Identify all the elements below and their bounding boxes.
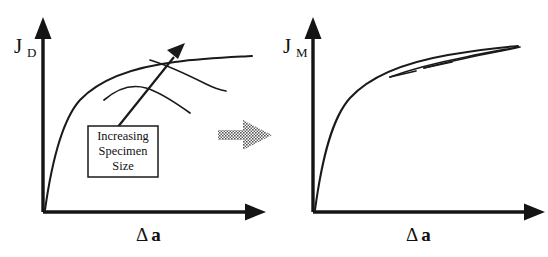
callout-line-3: Size: [112, 159, 134, 173]
right-y-axis-symbol: J: [283, 34, 291, 58]
figure-root: Increasing Specimen Size J D Δ a: [0, 0, 548, 257]
left-x-axis-variable: a: [151, 224, 161, 245]
left-x-axis-delta: Δ: [136, 224, 148, 245]
canvas-background: [0, 0, 548, 257]
right-y-axis-subscript: M: [296, 45, 308, 60]
callout-line-1: Increasing: [97, 129, 149, 143]
right-x-axis-delta: Δ: [406, 224, 418, 245]
increasing-size-callout: Increasing Specimen Size: [88, 126, 158, 177]
transition-arrow-shaft: [218, 130, 247, 140]
left-y-axis-subscript: D: [27, 45, 36, 60]
right-x-axis-variable: a: [421, 224, 431, 245]
left-y-axis-symbol: J: [14, 34, 22, 58]
diagram-canvas: Increasing Specimen Size J D Δ a: [0, 0, 548, 257]
callout-line-2: Specimen: [99, 144, 148, 158]
